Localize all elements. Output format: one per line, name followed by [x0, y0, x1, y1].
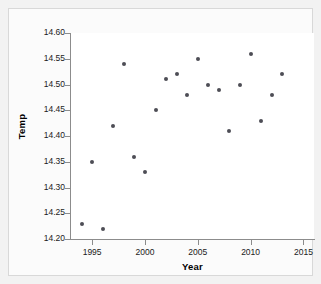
x-axis-label: Year: [70, 261, 315, 272]
data-point: [217, 88, 221, 92]
y-tick-label-wrap: 14.55: [19, 54, 65, 63]
y-tick-label-wrap: 14.60: [19, 28, 65, 37]
y-tick-label: 14.40: [31, 131, 65, 140]
y-tick-label: 14.25: [31, 208, 65, 217]
data-point: [259, 119, 263, 123]
x-tick-label: 1995: [72, 247, 112, 257]
x-tick-label: 2005: [178, 247, 218, 257]
figure-panel: 14.2014.2514.3014.3514.4014.4514.5014.55…: [8, 8, 313, 276]
y-tick-label: 14.60: [31, 28, 65, 37]
data-point: [143, 170, 147, 174]
data-point: [238, 83, 242, 87]
y-tick-mark: [65, 136, 70, 137]
data-point: [185, 93, 189, 97]
y-tick-mark: [65, 33, 70, 34]
x-tick-label: 2015: [283, 247, 321, 257]
x-tick-mark: [92, 240, 93, 245]
y-tick-label-wrap: 14.50: [19, 80, 65, 89]
data-point: [249, 52, 253, 56]
scatter-plot-figure: 14.2014.2514.3014.3514.4014.4514.5014.55…: [0, 0, 321, 284]
y-tick-label-wrap: 14.35: [19, 157, 65, 166]
data-point: [206, 83, 210, 87]
y-tick-mark: [65, 188, 70, 189]
x-tick-mark: [251, 240, 252, 245]
x-tick-mark: [145, 240, 146, 245]
data-point: [90, 160, 94, 164]
y-tick-mark: [65, 59, 70, 60]
y-axis-line: [70, 33, 71, 240]
y-tick-mark: [65, 162, 70, 163]
y-tick-label: 14.35: [31, 157, 65, 166]
data-point: [101, 227, 105, 231]
y-tick-label-wrap: 14.30: [19, 183, 65, 192]
x-axis-line: [70, 239, 315, 240]
x-tick-label: 2010: [231, 247, 271, 257]
y-tick-label-wrap: 14.25: [19, 208, 65, 217]
x-tick-mark: [303, 240, 304, 245]
y-tick-label: 14.20: [31, 234, 65, 243]
data-point: [175, 72, 179, 76]
data-point: [270, 93, 274, 97]
y-axis-label: Temp: [16, 97, 27, 157]
data-point: [80, 222, 84, 226]
data-point: [196, 57, 200, 61]
y-tick-label: 14.45: [31, 105, 65, 114]
data-point: [111, 124, 115, 128]
y-tick-label: 14.55: [31, 54, 65, 63]
y-tick-label: 14.30: [31, 183, 65, 192]
y-tick-label: 14.50: [31, 80, 65, 89]
y-tick-mark: [65, 85, 70, 86]
y-tick-label-wrap: 14.20: [19, 234, 65, 243]
x-tick-mark: [198, 240, 199, 245]
data-point: [122, 62, 126, 66]
y-tick-mark: [65, 110, 70, 111]
y-tick-mark: [65, 213, 70, 214]
plot-area: [71, 33, 314, 239]
x-tick-label: 2000: [125, 247, 165, 257]
y-tick-mark: [65, 239, 70, 240]
data-point: [154, 108, 158, 112]
